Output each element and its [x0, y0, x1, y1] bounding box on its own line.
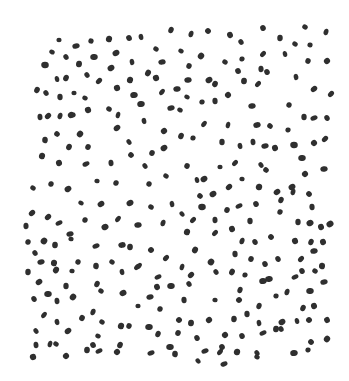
ink-dot — [63, 283, 68, 289]
ink-dot — [135, 304, 140, 308]
ink-dot — [71, 91, 76, 95]
ink-dot — [219, 139, 224, 145]
ink-dot — [295, 219, 300, 225]
ink-dot — [217, 165, 222, 169]
ink-dot — [56, 38, 61, 42]
ink-dot — [301, 114, 306, 120]
stipple-dot-pattern — [0, 0, 349, 381]
